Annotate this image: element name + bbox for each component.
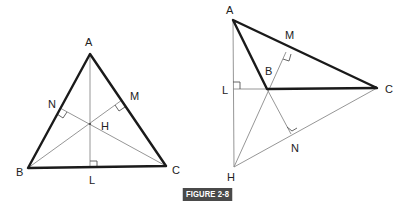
label-H: H [227,171,235,183]
label-M: M [130,90,139,102]
altitude-line-AH [233,20,234,167]
acute-triangle-figure: A B C H L M N [16,36,180,186]
obtuse-triangle-figure: A B C H L M N [222,4,393,183]
label-M: M [285,29,294,41]
triangle-ABC [28,54,166,168]
figure-caption: FIGURE 2-8 [183,188,233,201]
label-N: N [48,98,56,110]
label-A: A [85,36,93,48]
figure-diagram: A B C H L M N A B C H L M N [0,0,404,216]
label-L: L [222,84,228,96]
right-angle-mark-L [233,82,240,89]
label-B: B [16,166,23,178]
orthocenter-point [89,123,91,125]
label-C: C [385,83,393,95]
label-B: B [265,65,272,77]
label-L: L [89,174,95,186]
label-A: A [226,4,234,16]
right-angle-mark-M [115,105,125,111]
triangle-ABC [233,20,377,89]
label-H: H [101,120,109,132]
label-N: N [291,142,299,154]
label-C: C [172,164,180,176]
altitude-CN [60,108,166,166]
line-HC [234,88,377,167]
